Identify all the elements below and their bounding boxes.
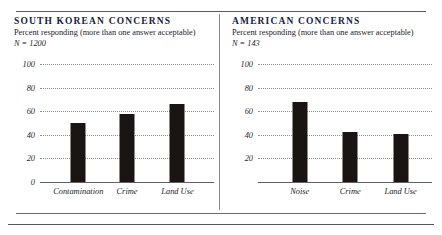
x-axis-label: Land Use <box>385 187 417 196</box>
panel-divider <box>219 14 220 210</box>
bottom-rule-thick <box>8 224 434 225</box>
y-tick-label: 80 <box>27 83 35 92</box>
gridline-60 <box>258 111 432 112</box>
panel-sample-size: N = 1200 <box>14 39 214 50</box>
x-axis-label: Contamination <box>53 187 103 196</box>
axis-baseline <box>40 182 214 183</box>
y-tick-label: 100 <box>240 59 253 68</box>
panel-title: SOUTH KOREAN CONCERNS <box>14 16 214 27</box>
panel-subtitle: Percent responding (more than one answer… <box>232 28 432 39</box>
y-tick-label: 40 <box>245 130 253 139</box>
bar <box>393 134 408 183</box>
bar <box>292 102 307 182</box>
bottom-rule-thin <box>16 213 426 214</box>
figure: SOUTH KOREAN CONCERNS Percent responding… <box>0 0 442 235</box>
plot-area: 100 80 60 40 20 Noise Crime Land Use <box>232 52 432 195</box>
bar <box>120 114 135 183</box>
x-axis-label: Noise <box>290 187 309 196</box>
x-axis-label: Crime <box>340 187 361 196</box>
y-tick-label: 60 <box>27 107 35 116</box>
gridline-100 <box>258 64 432 65</box>
y-tick-label: 20 <box>245 154 253 163</box>
y-tick-label: 80 <box>245 83 253 92</box>
axis-baseline <box>258 182 432 183</box>
plot-inner: 100 80 60 40 20 0 Contamination Crime La… <box>40 52 214 182</box>
top-rule <box>16 11 426 12</box>
y-tick-label: 40 <box>27 130 35 139</box>
bar <box>343 132 358 182</box>
y-tick-label: 0 <box>31 178 35 187</box>
x-axis-label: Land Use <box>161 187 193 196</box>
y-tick-label: 100 <box>22 59 35 68</box>
gridline-80 <box>258 88 432 89</box>
bar <box>170 104 185 182</box>
gridline-80 <box>40 88 214 89</box>
gridline-60 <box>40 111 214 112</box>
bar <box>71 123 86 182</box>
gridline-100 <box>40 64 214 65</box>
chart-panel-south-korean: SOUTH KOREAN CONCERNS Percent responding… <box>14 16 214 211</box>
panel-sample-size: N = 143 <box>232 39 432 50</box>
x-axis-label: Crime <box>117 187 138 196</box>
chart-panel-american: AMERICAN CONCERNS Percent responding (mo… <box>232 16 432 211</box>
plot-inner: 100 80 60 40 20 Noise Crime Land Use <box>258 52 432 182</box>
y-tick-label: 20 <box>27 154 35 163</box>
panel-title: AMERICAN CONCERNS <box>232 16 432 27</box>
plot-area: 100 80 60 40 20 0 Contamination Crime La… <box>14 52 214 195</box>
y-tick-label: 60 <box>245 107 253 116</box>
panel-subtitle: Percent responding (more than one answer… <box>14 28 214 39</box>
